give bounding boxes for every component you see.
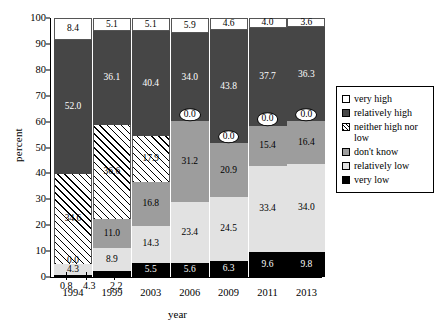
legend-label-relatively-high: relatively high: [354, 107, 429, 118]
bar-1999[interactable]: 5.136.136.611.08.9: [93, 18, 131, 277]
y-tick-label-20: 20: [16, 220, 46, 231]
segment-very-high-2011[interactable]: 4.0: [249, 18, 287, 28]
segment-label-very-high-2013: 3.6: [300, 18, 312, 28]
y-tick-label-70: 70: [16, 90, 46, 101]
zero-callout-dont-know-1994: 0.0: [63, 255, 83, 267]
segment-very-high-2003[interactable]: 5.1: [132, 18, 170, 31]
segment-relatively-high-1994[interactable]: 52.0: [54, 40, 92, 175]
zero-callout-neither-2011: 0.0: [257, 113, 279, 127]
segment-dont-know-1999[interactable]: 11.0: [93, 219, 131, 247]
segment-label-very-low-2009: 6.3: [223, 264, 235, 274]
y-tick-mark-60: [46, 121, 50, 122]
segment-dont-know-2011[interactable]: 15.4: [249, 126, 287, 166]
y-tick-mark-100: [46, 18, 50, 19]
segment-very-low-2006[interactable]: 5.6: [171, 263, 209, 278]
bar-2013[interactable]: 3.636.30.016.434.09.8: [287, 18, 325, 277]
zero-callout-neither-2013: 0.0: [295, 108, 317, 122]
segment-very-low-2013[interactable]: 9.8: [287, 252, 325, 277]
segment-label-neither-high-nor-low-2003: 17.9: [142, 154, 159, 164]
legend-label-relatively-low: relatively low: [354, 160, 429, 171]
bar-2003[interactable]: 5.140.417.916.814.35.5: [132, 18, 170, 277]
bar-1994[interactable]: 8.452.034.64.3: [54, 18, 92, 277]
segment-very-high-2009[interactable]: 4.6: [210, 18, 248, 30]
y-tick-label-90: 90: [16, 39, 46, 50]
segment-dont-know-2013[interactable]: 16.4: [287, 121, 325, 163]
segment-relatively-low-2009[interactable]: 24.5: [210, 197, 248, 260]
segment-dont-know-2006[interactable]: 31.2: [171, 121, 209, 202]
segment-relatively-high-2003[interactable]: 40.4: [132, 31, 170, 136]
y-axis-tick-labels: 1009080706050403020100: [12, 0, 46, 334]
y-tick-label-40: 40: [16, 168, 46, 179]
y-tick-label-80: 80: [16, 65, 46, 76]
segment-neither-high-nor-low-1999[interactable]: 36.6: [93, 125, 131, 220]
segment-label-relatively-low-2011: 33.4: [259, 204, 276, 214]
segment-relatively-low-2013[interactable]: 34.0: [287, 164, 325, 252]
segment-very-high-1999[interactable]: 5.1: [93, 18, 131, 31]
segment-neither-high-nor-low-2003[interactable]: 17.9: [132, 136, 170, 182]
segment-very-high-2006[interactable]: 5.9: [171, 18, 209, 33]
legend-label-dont-know: don't know: [354, 146, 429, 157]
legend-item-neither-high-nor-low[interactable]: neither high nor low: [342, 121, 429, 143]
leader-line-2-2: [114, 272, 115, 280]
segment-label-dont-know-2013: 16.4: [298, 138, 315, 148]
bar-2006[interactable]: 5.934.00.031.223.45.6: [171, 18, 209, 277]
segment-dont-know-2003[interactable]: 16.8: [132, 182, 170, 226]
swatch-very-low-icon: [342, 176, 350, 184]
segment-very-high-1994[interactable]: 8.4: [54, 18, 92, 40]
segment-label-relatively-high-2011: 37.7: [259, 72, 276, 82]
segment-label-relatively-high-2013: 36.3: [298, 70, 315, 80]
segment-dont-know-2009[interactable]: 20.9: [210, 143, 248, 197]
segment-very-low-2003[interactable]: 5.5: [132, 263, 170, 277]
segment-relatively-low-2003[interactable]: 14.3: [132, 226, 170, 263]
legend-label-very-low: very low: [354, 174, 429, 185]
segment-label-relatively-low-2009: 24.5: [220, 224, 237, 234]
segment-label-very-low-2013: 9.8: [300, 260, 312, 270]
segment-label-neither-high-nor-low-1994: 34.6: [65, 214, 82, 224]
legend-item-dont-know[interactable]: don't know: [342, 146, 429, 157]
bar-2011[interactable]: 4.037.70.015.433.49.6: [249, 18, 287, 277]
y-tick-mark-30: [46, 199, 50, 200]
swatch-neither-high-nor-low-icon: [342, 123, 350, 131]
segment-label-relatively-low-2006: 23.4: [181, 228, 198, 238]
y-tick-mark-20: [46, 225, 50, 226]
segment-label-relatively-high-2003: 40.4: [142, 79, 159, 89]
segment-label-very-low-2006: 5.6: [184, 265, 196, 275]
segment-very-low-2009[interactable]: 6.3: [210, 261, 248, 277]
zero-callout-neither-2006: 0.0: [179, 108, 201, 122]
segment-relatively-low-2011[interactable]: 33.4: [249, 166, 287, 253]
bar-2009[interactable]: 4.643.80.020.924.56.3: [210, 18, 248, 277]
y-tick-mark-90: [46, 43, 50, 44]
segment-relatively-high-2011[interactable]: 37.7: [249, 28, 287, 126]
segment-label-very-high-1999: 5.1: [106, 20, 118, 30]
segment-label-dont-know-2011: 15.4: [259, 141, 276, 151]
segment-relatively-low-2006[interactable]: 23.4: [171, 202, 209, 263]
y-tick-label-100: 100: [16, 13, 46, 24]
legend-item-relatively-high[interactable]: relatively high: [342, 107, 429, 118]
swatch-dont-know-icon: [342, 148, 350, 156]
segment-very-high-2013[interactable]: 3.6: [287, 18, 325, 27]
legend-item-very-high[interactable]: very high: [342, 93, 429, 104]
x-axis-title-text: year: [168, 308, 187, 320]
segment-label-relatively-high-2006: 34.0: [181, 73, 198, 83]
y-tick-mark-80: [46, 69, 50, 70]
segment-label-very-low-2011: 9.6: [262, 260, 274, 270]
stacked-bar-chart: percent 1009080706050403020100 8.452.034…: [0, 0, 439, 334]
leader-line-4-3: [86, 272, 87, 280]
legend-item-very-low[interactable]: very low: [342, 174, 429, 185]
segment-label-dont-know-2003: 16.8: [142, 199, 159, 209]
segment-label-very-high-1994: 8.4: [67, 24, 79, 34]
segment-very-low-1999[interactable]: [93, 271, 131, 277]
y-tick-label-10: 10: [16, 246, 46, 257]
y-tick-mark-0: [46, 277, 50, 278]
y-tick-label-60: 60: [16, 116, 46, 127]
legend-label-neither-high-nor-low: neither high nor low: [354, 121, 429, 143]
chart-legend: very highrelatively highneither high nor…: [336, 86, 434, 193]
segment-label-relatively-low-1999: 8.9: [106, 255, 118, 265]
legend-item-relatively-low[interactable]: relatively low: [342, 160, 429, 171]
segment-relatively-low-1999[interactable]: 8.9: [93, 248, 131, 271]
segment-relatively-high-1999[interactable]: 36.1: [93, 31, 131, 124]
segment-label-dont-know-1999: 11.0: [104, 229, 120, 239]
segment-neither-high-nor-low-1994[interactable]: 34.6: [54, 174, 92, 264]
segment-relatively-high-2009[interactable]: 43.8: [210, 30, 248, 143]
segment-very-low-2011[interactable]: 9.6: [249, 252, 287, 277]
